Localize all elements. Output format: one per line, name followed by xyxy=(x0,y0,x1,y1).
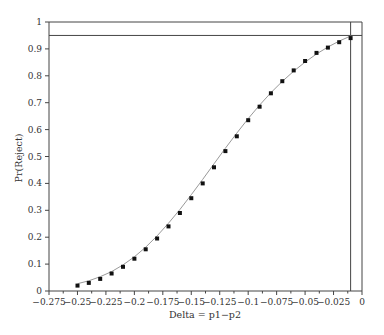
x-tick-label: 0 xyxy=(359,297,365,307)
data-point-marker xyxy=(201,181,205,185)
y-tick-label: 0.7 xyxy=(28,98,43,108)
y-axis-ticks: 00.10.20.30.40.50.60.70.80.91 xyxy=(28,17,49,296)
x-tick-label: −0.25 xyxy=(64,297,92,307)
data-point-marker xyxy=(144,247,148,251)
data-point-marker xyxy=(223,149,227,153)
y-axis-title: Pr(Reject) xyxy=(13,134,24,183)
data-point-marker xyxy=(280,79,284,83)
data-point-marker xyxy=(235,134,239,138)
data-point-marker xyxy=(337,40,341,44)
power-curve-chart: −0.275−0.25−0.225−0.2−0.175−0.15−0.125−0… xyxy=(0,0,384,335)
y-tick-label: 0.1 xyxy=(28,259,42,269)
data-point-marker xyxy=(189,196,193,200)
data-markers xyxy=(76,36,353,288)
data-point-marker xyxy=(326,46,330,50)
y-tick-label: 0.8 xyxy=(28,71,43,81)
data-point-marker xyxy=(349,36,353,40)
y-tick-label: 0.5 xyxy=(28,152,43,162)
y-tick-label: 0.9 xyxy=(28,44,43,54)
data-point-marker xyxy=(212,165,216,169)
y-tick-label: 0.3 xyxy=(28,205,43,215)
data-point-marker xyxy=(132,257,136,261)
data-point-marker xyxy=(258,105,262,109)
data-point-marker xyxy=(76,284,80,288)
data-point-marker xyxy=(292,68,296,72)
theoretical-curve xyxy=(78,36,351,284)
y-tick-label: 0 xyxy=(36,286,42,296)
data-point-marker xyxy=(246,118,250,122)
x-axis-title: Delta = p1−p2 xyxy=(169,309,241,320)
x-tick-label: −0.275 xyxy=(32,297,66,307)
data-point-marker xyxy=(121,265,125,269)
x-tick-label: −0.15 xyxy=(177,297,205,307)
y-tick-label: 0.2 xyxy=(28,232,42,242)
x-tick-label: −0.2 xyxy=(123,297,145,307)
x-tick-label: −0.1 xyxy=(237,297,259,307)
data-point-marker xyxy=(269,91,273,95)
x-tick-label: −0.075 xyxy=(260,297,294,307)
y-tick-label: 0.6 xyxy=(28,125,43,135)
x-tick-label: −0.05 xyxy=(291,297,319,307)
y-tick-label: 0.4 xyxy=(28,178,43,188)
data-point-marker xyxy=(303,59,307,63)
x-tick-label: −0.175 xyxy=(146,297,180,307)
data-point-marker xyxy=(155,237,159,241)
y-tick-label: 1 xyxy=(36,17,42,27)
data-point-marker xyxy=(87,281,91,285)
reference-lines xyxy=(49,22,362,291)
data-point-marker xyxy=(167,224,171,228)
data-point-marker xyxy=(178,211,182,215)
x-axis-ticks: −0.275−0.25−0.225−0.2−0.175−0.15−0.125−0… xyxy=(32,291,365,307)
x-tick-label: −0.225 xyxy=(89,297,123,307)
data-point-marker xyxy=(110,272,114,276)
x-tick-label: −0.025 xyxy=(317,297,351,307)
data-point-marker xyxy=(98,277,102,281)
data-point-marker xyxy=(315,51,319,55)
plot-frame xyxy=(49,22,362,291)
x-tick-label: −0.125 xyxy=(203,297,237,307)
